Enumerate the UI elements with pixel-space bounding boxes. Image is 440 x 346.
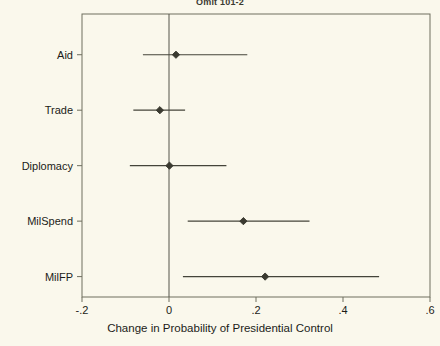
y-axis-label-milspend: MilSpend [27,215,73,227]
y-axis-label-trade: Trade [45,104,73,116]
x-axis-tick-label: .2 [251,304,260,316]
x-axis-tick-label: .6 [425,304,434,316]
estimate-marker [166,162,173,169]
x-axis-tick-label: -.2 [76,304,89,316]
estimate-marker [262,273,269,280]
x-axis-tick-label: 0 [166,304,172,316]
y-axis-label-milfp: MilFP [45,271,73,283]
x-axis-tick-label: .4 [338,304,347,316]
plot-frame [82,14,430,297]
estimate-marker [156,107,163,114]
estimate-marker [172,51,179,58]
y-axis-label-diplomacy: Diplomacy [22,160,73,172]
estimate-marker [240,218,247,225]
x-axis-title: Change in Probability of Presidential Co… [0,322,440,334]
y-axis-label-aid: Aid [57,49,73,61]
coefficient-plot: Omit 101-2 AidTradeDiplomacyMilSpendMilF… [0,0,440,346]
